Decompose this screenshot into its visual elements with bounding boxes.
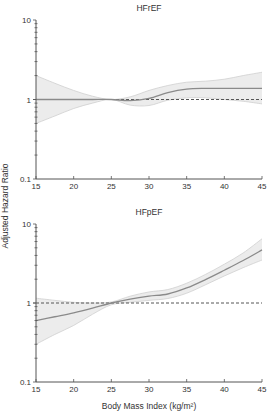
y-axis: 0.1110	[20, 220, 38, 387]
x-tick-label: 20	[69, 385, 78, 394]
x-tick-label: 30	[145, 385, 154, 394]
panel-title: HFrEF	[136, 3, 161, 13]
panel-hfref: HFrEF 0.1110 15202530354045	[20, 3, 267, 191]
x-tick-label: 15	[32, 385, 41, 394]
figure: Adjusted Hazard Ratio HFrEF 0.1110 15202…	[0, 0, 270, 413]
y-tick-label: 10	[22, 16, 31, 25]
panel-hfpef: HFpEF 0.1110 15202530354045 Body Mass In…	[20, 207, 267, 411]
x-tick-label: 40	[220, 385, 229, 394]
y-tick-label: 10	[22, 220, 31, 229]
y-axis: 0.1110	[20, 16, 38, 184]
x-tick-label: 20	[69, 182, 78, 191]
x-tick-label: 40	[220, 182, 229, 191]
x-tick-label: 25	[107, 385, 116, 394]
x-tick-label: 45	[258, 182, 267, 191]
y-tick-label: 1	[27, 96, 32, 105]
y-tick-label: 1	[27, 299, 32, 308]
x-tick-label: 45	[258, 385, 267, 394]
x-axis-label: Body Mass Index (kg/m²)	[102, 401, 197, 411]
panel-title: HFpEF	[136, 207, 163, 217]
x-tick-label: 35	[182, 385, 191, 394]
x-axis: 15202530354045	[32, 176, 267, 191]
x-tick-label: 35	[182, 182, 191, 191]
x-axis: 15202530354045	[32, 379, 267, 394]
x-tick-label: 25	[107, 182, 116, 191]
y-tick-label: 0.1	[20, 175, 32, 184]
x-tick-label: 15	[32, 182, 41, 191]
x-tick-label: 30	[145, 182, 154, 191]
y-axis-label: Adjusted Hazard Ratio	[0, 163, 10, 248]
y-tick-label: 0.1	[20, 378, 32, 387]
